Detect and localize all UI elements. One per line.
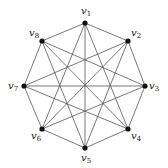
vertex-v7 — [21, 83, 26, 88]
graph-diagram: v1v2v3v4v5v6v7v8 — [0, 0, 168, 168]
vertex-v6 — [39, 126, 44, 131]
edge-v2-v3 — [128, 41, 145, 86]
label-v1: v1 — [81, 5, 91, 18]
label-v2: v2 — [131, 27, 141, 40]
label-v6: v6 — [31, 130, 42, 143]
label-v8: v8 — [29, 27, 39, 40]
vertex-v1 — [82, 20, 87, 25]
label-v4: v4 — [131, 130, 142, 143]
vertex-v4 — [125, 126, 130, 131]
vertex-v3 — [142, 83, 147, 88]
vertex-v8 — [39, 38, 44, 43]
edge-v3-v6 — [42, 86, 145, 129]
vertex-v2 — [125, 38, 130, 43]
vertex-labels: v1v2v3v4v5v6v7v8 — [8, 5, 159, 165]
label-v5: v5 — [81, 152, 91, 165]
vertex-v5 — [82, 145, 87, 150]
edge-v6-v1 — [42, 23, 85, 129]
label-v7: v7 — [8, 80, 18, 93]
label-v3: v3 — [149, 80, 159, 93]
